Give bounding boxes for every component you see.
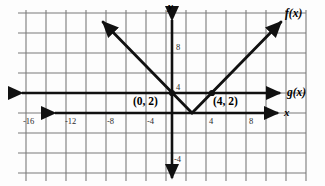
- y-tick-label-4: 4: [176, 83, 180, 92]
- curve-label-g: g(x): [287, 87, 306, 99]
- x-tick-label--16: -16: [23, 117, 34, 126]
- dot-point-left: [169, 90, 175, 96]
- x-tick-label--12: -12: [65, 117, 76, 126]
- x-tick-label--8: -8: [107, 117, 114, 126]
- y-axis-name: y: [168, 1, 173, 12]
- x-tick-label-4: 4: [209, 117, 213, 126]
- annotation-point-right: (4, 2): [213, 96, 238, 108]
- annotation-point-left: (0, 2): [133, 96, 158, 108]
- y-tick-label--4: -4: [174, 155, 181, 164]
- x-axis-name: x: [284, 107, 290, 118]
- x-tick-label--4: -4: [147, 117, 154, 126]
- graph-canvas: [0, 0, 325, 186]
- x-tick-label-8: 8: [249, 117, 253, 126]
- curve-label-f: f(x): [285, 8, 302, 20]
- grid-lines: [18, 10, 306, 181]
- y-tick-label-8: 8: [176, 43, 180, 52]
- graph-figure: -16 -12 -8 -4 4 8 8 4 -4 y x f(x) g(x) (…: [0, 0, 325, 186]
- curve-f: [103, 22, 281, 113]
